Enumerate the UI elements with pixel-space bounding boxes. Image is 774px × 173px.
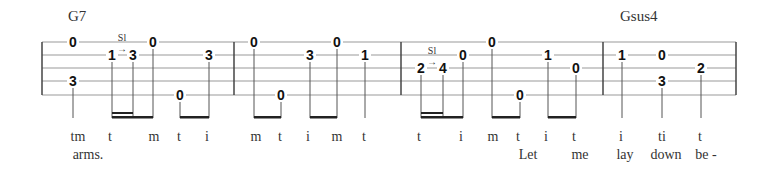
beam [492, 116, 520, 119]
fingering: m [488, 129, 499, 145]
fret-number: 0 [176, 87, 184, 103]
fingering: i [205, 129, 209, 145]
fingering: i [459, 129, 463, 145]
fret-number: 4 [439, 60, 447, 76]
beam-secondary [112, 112, 133, 114]
fret-number: 3 [129, 47, 137, 63]
fingering: m [251, 129, 262, 145]
fret-number: 2 [697, 60, 705, 76]
beam-secondary [421, 112, 443, 114]
lyric-word: down [650, 147, 681, 163]
beam [548, 116, 576, 119]
beam [180, 116, 209, 119]
fret-number: 0 [459, 47, 467, 63]
fingering: i [619, 129, 623, 145]
lyric-word: Let [519, 147, 538, 163]
fingering: t [278, 129, 282, 145]
fingering: i [306, 129, 310, 145]
fret-number: 0 [69, 34, 77, 50]
fret-number: 3 [69, 73, 77, 89]
fret-number: 3 [306, 47, 314, 63]
slide-label: Sl [428, 45, 437, 56]
lyric-word: arms. [73, 147, 104, 163]
slide-label: Sl [118, 32, 127, 43]
fret-number: 3 [658, 73, 666, 89]
fingering: t [362, 129, 366, 145]
fingering: i [544, 129, 548, 145]
slide-arrow-icon: → [427, 56, 437, 67]
fret-number: 1 [361, 47, 369, 63]
fret-number: 0 [572, 60, 580, 76]
fret-number: 1 [618, 47, 626, 63]
lyric-word: be - [695, 147, 716, 163]
lyric-word: lay [616, 147, 633, 163]
fret-number: 3 [205, 47, 213, 63]
fingering: m [332, 129, 343, 145]
fingering: t [572, 129, 576, 145]
beam [254, 116, 281, 119]
chord-name: Gsus4 [620, 8, 658, 25]
fret-number: 0 [277, 87, 285, 103]
fingering: t [108, 129, 112, 145]
fret-number: 2 [417, 60, 425, 76]
chord-name: G7 [68, 8, 86, 25]
fingering: t [698, 129, 702, 145]
slide-arrow-icon: → [117, 43, 127, 54]
fret-number: 0 [333, 34, 341, 50]
fret-number: 0 [488, 34, 496, 50]
fret-number: 1 [108, 47, 116, 63]
fingering: m [149, 129, 160, 145]
beam [421, 116, 463, 119]
fret-number: 0 [250, 34, 258, 50]
fingering: tm [71, 129, 86, 145]
fret-number: 1 [544, 47, 552, 63]
lyric-word: me [571, 147, 588, 163]
beam [112, 116, 153, 119]
beam [310, 116, 337, 119]
fingering: t [177, 129, 181, 145]
fingering: t [417, 129, 421, 145]
fret-number: 0 [149, 34, 157, 50]
fret-number: 0 [516, 87, 524, 103]
fingering: t [516, 129, 520, 145]
fret-number: 0 [658, 47, 666, 63]
fingering: ti [658, 129, 666, 145]
